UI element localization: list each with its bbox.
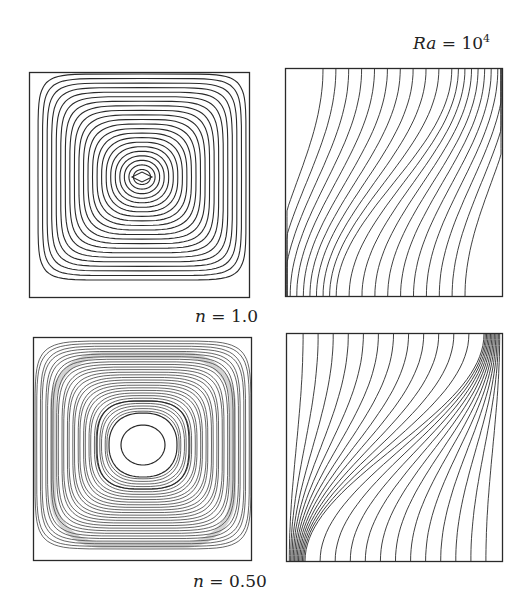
isotherms-panel-n050 — [286, 333, 503, 562]
ra-symbol: Ra — [413, 33, 436, 53]
n-value: = 1.0 — [206, 306, 258, 326]
row1-label: n = 1.0 — [195, 306, 258, 326]
streamline-contours — [33, 337, 252, 561]
n-symbol: n — [193, 571, 204, 591]
row2-label: n = 0.50 — [193, 571, 267, 591]
rayleigh-number-label: Ra = 104 — [413, 33, 490, 53]
isotherms-panel-n1 — [285, 68, 503, 297]
streamline-contours — [29, 72, 250, 298]
isotherm-contours — [285, 68, 503, 297]
n-symbol: n — [195, 306, 206, 326]
n-value: = 0.50 — [204, 571, 267, 591]
ra-exponent: 4 — [483, 32, 490, 45]
streamlines-panel-n1 — [29, 72, 250, 298]
ra-eq: = 10 — [436, 33, 483, 53]
isotherm-contours — [286, 333, 503, 562]
streamlines-panel-n050 — [33, 337, 252, 561]
